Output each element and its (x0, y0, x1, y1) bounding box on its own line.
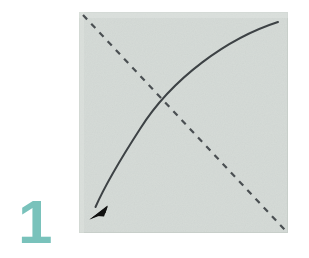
origami-step-figure: 1 Step 1: fold the square sheet along th… (0, 0, 309, 258)
paper-sheet-highlight (79, 12, 288, 18)
step-number: 1 (18, 187, 51, 256)
paper-sheet-highlight-left (79, 12, 84, 233)
diagram-canvas: 1 (0, 0, 309, 258)
